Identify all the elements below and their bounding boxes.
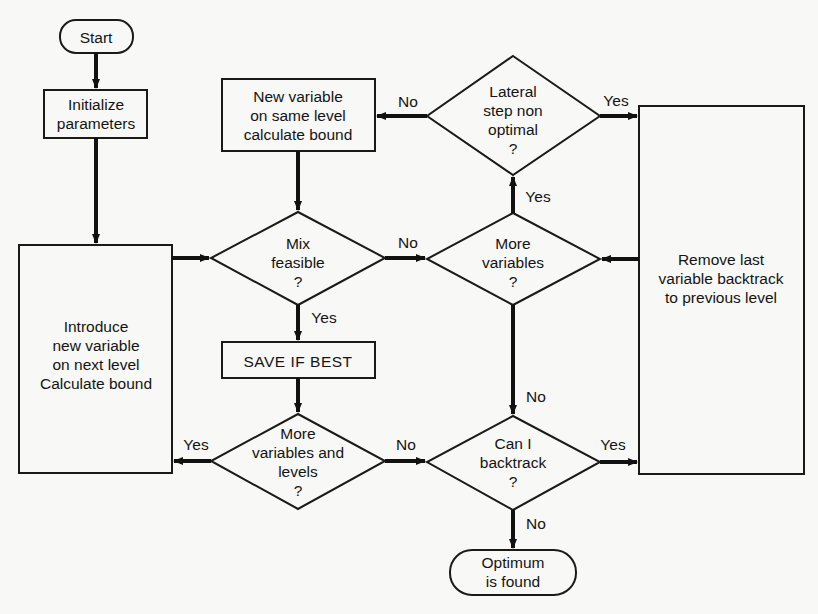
lat-no-label: No — [398, 93, 418, 111]
more-variables-label: More variables ? — [482, 234, 544, 291]
start-label: Start — [80, 28, 113, 47]
more-vars-levels-label: More variables and levels ? — [252, 424, 344, 500]
optimum-label: Optimum is found — [482, 553, 545, 591]
can-backtrack-label: Can I backtrack ? — [480, 434, 546, 491]
lat-yes-label: Yes — [603, 92, 628, 110]
mix-no-label: No — [398, 234, 418, 252]
mv-yes-label: Yes — [525, 188, 550, 206]
mix-feasible-label: Mix feasible ? — [271, 234, 324, 291]
cb-no-label: No — [526, 515, 546, 533]
lateral-step-label: Lateral step non optimal ? — [483, 82, 542, 158]
new-variable-label: New variable on same level calculate bou… — [244, 87, 353, 144]
mv-no-label: No — [526, 388, 546, 406]
initialize-label: Initialize parameters — [57, 95, 135, 133]
introduce-label: Introduce new variable on next level Cal… — [40, 317, 152, 393]
cb-yes-label: Yes — [600, 436, 625, 454]
remove-last-label: Remove last variable backtrack to previo… — [659, 250, 784, 307]
mvl-yes-label: Yes — [183, 436, 208, 454]
mvl-no-label: No — [396, 436, 416, 454]
save-if-best-label: SAVE IF BEST — [243, 352, 352, 371]
mix-yes-label: Yes — [311, 309, 336, 327]
